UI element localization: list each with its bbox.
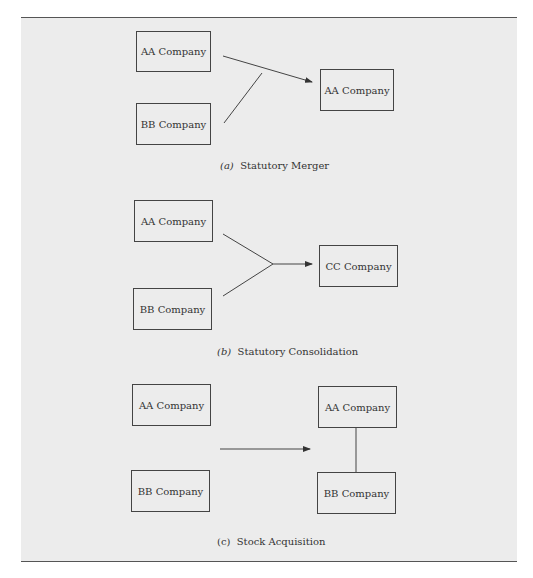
caption-acquisition: (c) Stock Acquisition [217, 536, 325, 547]
acquisition-aa-left-box: AA Company [132, 384, 211, 426]
caption-consolidation: (b) Statutory Consolidation [217, 346, 358, 357]
caption-letter: (b) [217, 346, 231, 357]
connector-lines [0, 0, 533, 578]
merger-result-box: AA Company [320, 69, 394, 111]
merger-bb-box: BB Company [136, 103, 211, 145]
caption-letter: (a) [220, 160, 234, 171]
consolidation-cc-box: CC Company [319, 245, 398, 287]
acquisition-bb-left-box: BB Company [131, 470, 210, 512]
caption-text: Stock Acquisition [237, 536, 326, 547]
acquisition-aa-right-box: AA Company [318, 386, 397, 428]
consolidation-aa-box: AA Company [134, 200, 213, 242]
consolidation-bb-box: BB Company [133, 288, 212, 330]
caption-letter: (c) [217, 536, 230, 547]
caption-text: Statutory Merger [240, 160, 329, 171]
acquisition-bb-right-box: BB Company [317, 472, 396, 514]
merger-aa-box: AA Company [136, 31, 211, 72]
caption-text: Statutory Consolidation [238, 346, 359, 357]
caption-merger: (a) Statutory Merger [220, 160, 329, 171]
